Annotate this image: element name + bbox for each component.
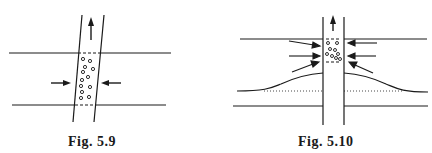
particles bbox=[326, 42, 342, 61]
raised-surface-right bbox=[344, 73, 428, 92]
figure-caption: Fig. 5.10 bbox=[298, 134, 353, 150]
upward-arrow-icon bbox=[88, 17, 94, 40]
figure-5-9: Fig. 5.9 bbox=[0, 0, 216, 153]
figure-5-10-diagram bbox=[216, 0, 432, 153]
converging-arrows-right bbox=[348, 40, 377, 73]
upward-arrow-icon bbox=[330, 15, 336, 31]
converging-arrows-left bbox=[289, 41, 320, 72]
figure-5-10: Fig. 5.10 bbox=[216, 0, 432, 153]
particles bbox=[79, 57, 94, 99]
figure-caption: Fig. 5.9 bbox=[68, 134, 116, 150]
figure-5-9-diagram bbox=[0, 0, 216, 153]
right-arrow-icon bbox=[51, 80, 71, 86]
tube-right-wall bbox=[94, 15, 104, 122]
raised-surface-left bbox=[237, 73, 323, 91]
tube-left-wall bbox=[73, 15, 82, 122]
left-arrow-icon bbox=[101, 80, 121, 86]
